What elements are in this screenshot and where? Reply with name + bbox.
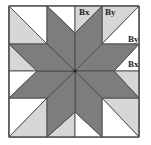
- label-top-by: By: [105, 7, 116, 17]
- label-right-bx: Bx: [128, 59, 139, 69]
- quilt-block-diagram: Bx By By Bx: [0, 0, 151, 145]
- label-right-by: By: [128, 34, 139, 44]
- center-point: [73, 69, 76, 72]
- label-top-bx: Bx: [79, 7, 90, 17]
